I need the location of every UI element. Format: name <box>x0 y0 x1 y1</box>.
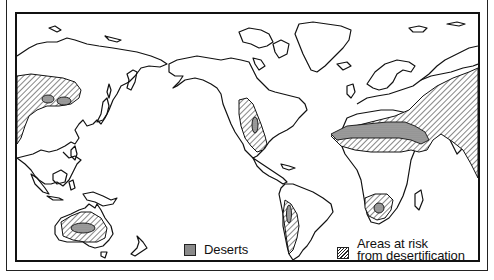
land-madagascar <box>415 190 423 210</box>
land-central-america <box>253 158 287 184</box>
map-frame <box>15 12 480 262</box>
land-arctic-isl <box>105 36 121 42</box>
legend-label-risk-line2: from desertification <box>357 250 465 262</box>
land-alaska-canada <box>169 56 307 158</box>
legend-item-risk: Areas at risk from desertification <box>337 238 465 262</box>
legend-label-risk: Areas at risk from desertification <box>357 238 465 262</box>
land-svalbard <box>409 26 427 32</box>
desert-gobi-1 <box>42 95 54 103</box>
land-iceland <box>337 62 351 70</box>
hatch-swatch-icon <box>337 247 349 259</box>
desert-kalahari <box>374 203 384 213</box>
land-canadian-arctic <box>239 28 273 48</box>
legend-label-deserts: Deserts <box>204 244 248 256</box>
land-new-zealand <box>131 236 147 256</box>
land-sulawesi <box>69 180 75 190</box>
risk-central-asia <box>17 74 81 144</box>
land-caribbean <box>281 164 295 170</box>
desert-sonoran <box>252 117 258 133</box>
land-hudson <box>253 58 265 70</box>
land-scandinavia <box>367 60 415 90</box>
world-map <box>17 14 478 260</box>
land-kamchatka <box>127 70 137 90</box>
land-new-guinea <box>83 192 117 206</box>
land-greenland <box>295 22 351 72</box>
land-novaya <box>49 26 61 32</box>
land-borneo <box>53 170 67 184</box>
land-uk <box>347 84 355 98</box>
land-philippines <box>71 146 77 160</box>
land-tasmania <box>101 252 107 258</box>
desert-atacama <box>287 205 292 223</box>
land-sakhalin <box>107 84 111 98</box>
land-japan <box>97 98 109 122</box>
land-franz-josef <box>447 22 465 26</box>
legend-item-deserts: Deserts <box>184 244 248 256</box>
desert-australia <box>71 223 95 233</box>
land-baffin <box>273 40 289 58</box>
desert-swatch-icon <box>184 244 196 256</box>
land-java <box>47 196 63 200</box>
desert-gobi-2 <box>57 97 71 105</box>
